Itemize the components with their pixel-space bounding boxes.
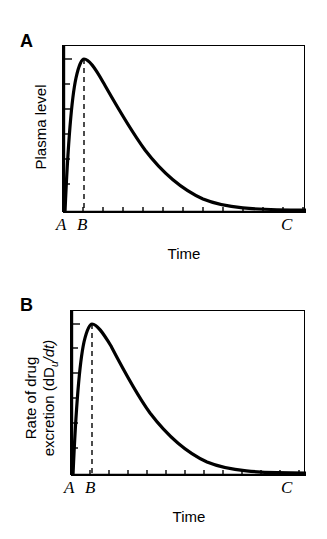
- panel-b: B Rate of drug excretion (dDu/dt): [0, 268, 327, 539]
- panel-a-letter: A: [20, 32, 33, 50]
- panel-b-x-axis-label: Time: [130, 508, 248, 525]
- panel-b-curve: [73, 324, 306, 475]
- panel-a-x-axis-label: Time: [125, 245, 243, 262]
- panel-b-marker-b: B: [85, 479, 95, 496]
- panel-b-y-axis-label-subscript: u: [49, 361, 60, 367]
- figure-root: A Plasma level: [0, 0, 327, 539]
- panel-b-y-axis-label-line2-text: excretion (dD: [40, 367, 57, 456]
- panel-b-y-axis-label-line3: /dt): [40, 340, 57, 362]
- panel-a-plot-area: [62, 45, 305, 212]
- panel-b-marker-a: A: [64, 479, 74, 496]
- panel-a-marker-a: A: [56, 216, 66, 233]
- panel-b-y-axis-label-line2: excretion (dDu/dt): [40, 315, 61, 481]
- panel-a-marker-c: C: [281, 216, 292, 233]
- panel-b-plot-area: [70, 310, 305, 475]
- panel-b-letter: B: [20, 296, 33, 314]
- panel-a: A Plasma level: [0, 0, 327, 268]
- panel-b-plot-svg: [71, 311, 306, 476]
- panel-b-y-axis-label: Rate of drug excretion (dDu/dt): [22, 315, 62, 481]
- panel-a-curve: [65, 59, 306, 212]
- panel-a-y-axis-label: Plasma level: [33, 61, 51, 193]
- panel-a-marker-b: B: [77, 216, 87, 233]
- panel-a-plot-svg: [63, 46, 306, 213]
- panel-b-y-axis-label-line1: Rate of drug: [22, 315, 40, 481]
- panel-b-marker-c: C: [281, 479, 292, 496]
